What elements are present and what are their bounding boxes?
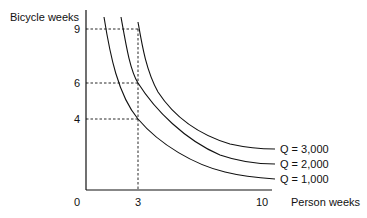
x-axis-label: Person weeks [291,197,360,208]
y-tick-6: 6 [74,78,80,89]
y-tick-9: 9 [74,24,80,35]
isoquant-q2000 [121,17,275,164]
legend-q2000: Q = 2,000 [280,159,329,170]
legend-q3000: Q = 3,000 [280,144,329,155]
dashed-guides [86,29,138,190]
x-tick-3: 3 [135,197,141,208]
isoquant-q3000 [138,22,275,149]
isoquant-q1000 [104,17,275,179]
x-tick-10: 10 [256,197,268,208]
origin-label: 0 [74,197,80,208]
y-tick-4: 4 [74,114,80,125]
y-axis-label: Bicycle weeks [10,12,79,23]
chart-canvas [0,0,367,218]
legend-q1000: Q = 1,000 [280,174,329,185]
